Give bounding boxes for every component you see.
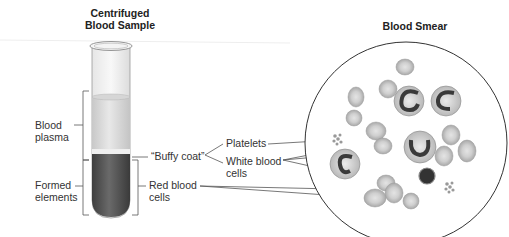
label-red-blood-cells: Red blood cells: [149, 179, 197, 203]
label-line: cells: [226, 167, 281, 179]
label-platelets: Platelets: [226, 137, 266, 149]
tube-rim: [90, 42, 132, 51]
background-rule: [0, 40, 290, 43]
plasma-layer: [92, 97, 130, 153]
label-line: Blood: [35, 119, 69, 131]
label-blood-plasma: Blood plasma: [35, 119, 69, 143]
label-white-blood-cells: White blood cells: [226, 155, 281, 179]
label-line: elements: [35, 191, 78, 203]
blood-smear-field: [305, 42, 507, 237]
label-formed-elements: Formed elements: [35, 179, 78, 203]
label-line: White blood: [226, 155, 281, 167]
buffy-coat-layer: [92, 149, 130, 154]
test-tube: [90, 42, 132, 219]
red-cell-layer: [92, 154, 130, 217]
label-line: Formed: [35, 179, 78, 191]
label-line: plasma: [35, 131, 69, 143]
label-buffy-coat: “Buffy coat”: [151, 150, 205, 162]
label-line: Red blood: [149, 179, 197, 191]
label-line: cells: [149, 191, 197, 203]
